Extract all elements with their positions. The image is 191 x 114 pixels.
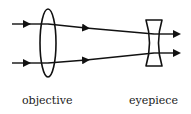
bottom-ray <box>12 53 177 63</box>
eyepiece-label: eyepiece <box>129 94 178 107</box>
objective-label: objective <box>22 94 72 107</box>
objective-lens-icon <box>40 9 56 77</box>
top-ray <box>12 24 177 34</box>
eyepiece-lens-icon <box>146 20 162 66</box>
